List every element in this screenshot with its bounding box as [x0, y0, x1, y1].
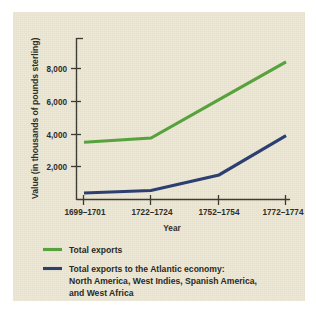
y-tick-label-4000: 4,000	[47, 131, 68, 140]
x-tick-label-2: 1752–1754	[199, 208, 240, 217]
series-line-total-exports	[84, 62, 286, 142]
line-chart: Value (in thousands of pounds sterling) …	[0, 0, 316, 314]
y-tick-label-6000: 6,000	[47, 98, 68, 107]
y-axis-title: Value (in thousands of pounds sterling)	[30, 37, 40, 199]
legend-label-0-line1: Total exports	[69, 245, 123, 255]
chart-figure: Value (in thousands of pounds sterling) …	[0, 0, 316, 314]
legend-label-1-line1: Total exports to the Atlantic economy:	[69, 264, 225, 274]
x-axis-title: Year	[163, 224, 181, 233]
legend-label-1-line2: North America, West Indies, Spanish Amer…	[69, 276, 257, 286]
legend: Total exports Total exports to the Atlan…	[43, 245, 257, 298]
y-tick-labels: 8,000 6,000 4,000 2,000	[47, 65, 68, 172]
y-tick-label-8000: 8,000	[47, 65, 68, 74]
legend-label-1-line3: and West Africa	[69, 288, 134, 298]
x-tick-label-1: 1722–1724	[132, 208, 173, 217]
x-tick-label-0: 1699–1701	[65, 208, 106, 217]
x-tick-label-3: 1772–1774	[263, 208, 304, 217]
x-tick-labels: 1699–1701 1722–1724 1752–1754 1772–1774	[65, 208, 304, 217]
y-tick-label-2000: 2,000	[47, 163, 68, 172]
series-line-atlantic-economy	[84, 136, 286, 193]
